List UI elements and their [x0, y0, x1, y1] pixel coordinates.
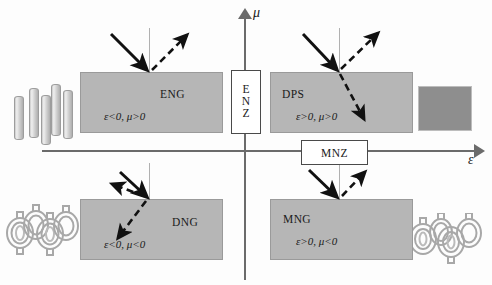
refracted-ray-dps	[340, 74, 364, 119]
rays-eng	[111, 34, 187, 70]
rays-mng	[309, 170, 365, 197]
ray-diagrams	[0, 0, 492, 285]
mnz-label: MNZ	[321, 147, 348, 159]
incident-ray-eng	[111, 34, 147, 70]
rays-dng	[112, 172, 147, 238]
enz-letter-z: Z	[242, 108, 249, 120]
metamaterial-quadrant-diagram: μ ε	[0, 0, 492, 285]
incident-ray-mng	[309, 170, 337, 197]
refracted-ray-dng	[118, 201, 146, 238]
mnz-box: MNZ	[301, 140, 368, 165]
reflected-ray-mng	[342, 172, 365, 196]
rays-dps	[303, 33, 378, 119]
incident-ray-dng	[120, 172, 147, 197]
incident-ray-dps	[303, 34, 337, 70]
reflected-ray-eng	[152, 35, 187, 70]
reflected-ray-dps	[341, 33, 378, 69]
enz-box: E N Z	[231, 70, 261, 134]
